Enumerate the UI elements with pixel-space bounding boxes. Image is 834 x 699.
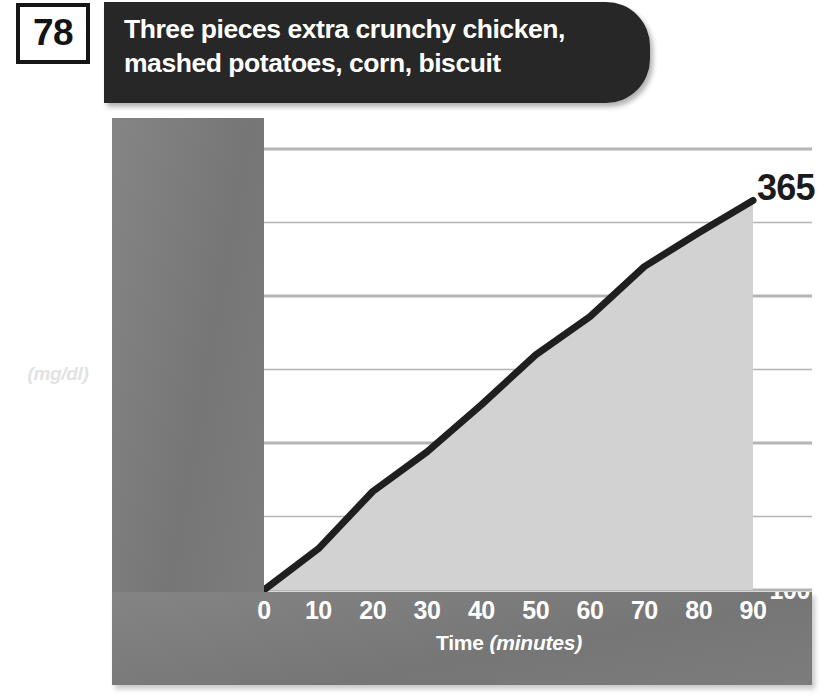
end-value-callout: 365 — [757, 170, 815, 206]
plot-area — [264, 118, 812, 592]
x-tick-label: 0 — [257, 598, 270, 623]
x-tick-label: 70 — [631, 598, 658, 623]
x-axis-title: Time (minutes) — [264, 632, 754, 653]
page-title: Three pieces extra crunchy chicken, mash… — [124, 13, 644, 80]
x-tick-label: 60 — [577, 598, 604, 623]
page-number-text: 78 — [33, 14, 73, 51]
y-axis-units: (mg/dl) — [6, 364, 110, 383]
x-axis-title-units: (minutes) — [489, 631, 582, 654]
x-tick-label: 40 — [468, 598, 495, 623]
x-tick-label: 10 — [305, 598, 332, 623]
blood-sugar-area-chart — [264, 118, 812, 592]
x-tick-label: 20 — [359, 598, 386, 623]
x-tick-label: 80 — [685, 598, 712, 623]
x-tick-label: 30 — [414, 598, 441, 623]
x-tick-label: 50 — [522, 598, 549, 623]
y-axis-title: Rise in Blood Sugar — [6, 284, 110, 345]
x-tick-label: 90 — [740, 598, 767, 623]
x-axis-title-main: Time — [436, 631, 489, 654]
page-number-badge: 78 — [16, 3, 90, 64]
